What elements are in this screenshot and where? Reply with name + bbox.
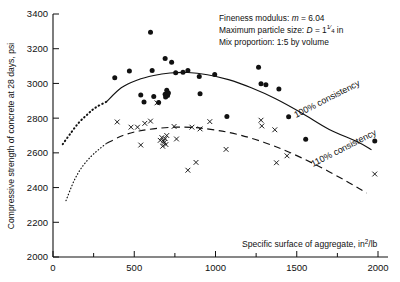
curve-extrapolation-110 — [66, 143, 107, 200]
x-axis-title-pre: Specific surface of aggregate, in — [242, 239, 365, 249]
data-point-100 — [256, 65, 261, 70]
curve-label-100-text: 100% consistency — [292, 78, 362, 120]
data-point-110 — [274, 160, 279, 165]
data-point-100 — [286, 114, 291, 119]
y-tick-label: 2000 — [27, 251, 48, 262]
data-point-110 — [115, 120, 120, 125]
data-point-100 — [127, 68, 132, 73]
anno1-symbol: m — [292, 13, 299, 23]
data-point-110 — [224, 147, 229, 152]
annotation-line-1: Fineness modulus: m = 6.04 — [219, 13, 325, 23]
data-point-110 — [185, 168, 190, 173]
data-point-100 — [166, 90, 171, 95]
data-point-110 — [285, 153, 290, 158]
y-axis-title: Compressive strength of concrete at 28 d… — [6, 43, 16, 229]
curve-extrapolation-100 — [63, 102, 107, 145]
data-point-110 — [135, 125, 140, 130]
data-point-110 — [129, 125, 134, 130]
y-tick-labels: 20002200240026002800300032003400 — [27, 8, 48, 262]
data-point-100 — [198, 91, 203, 96]
data-point-100 — [148, 30, 153, 35]
data-point-110 — [194, 160, 199, 165]
data-point-100 — [181, 70, 186, 75]
data-point-110 — [142, 121, 147, 126]
x-tick-labels: 0500100015002000 — [50, 262, 388, 273]
data-point-100 — [303, 137, 308, 142]
data-point-100 — [112, 75, 117, 80]
data-point-100 — [185, 68, 190, 73]
data-point-110 — [138, 143, 143, 148]
y-tick-label: 2400 — [27, 182, 48, 193]
chart-figure: 20002200240026002800300032003400 0500100… — [0, 0, 400, 282]
data-point-110 — [148, 119, 153, 124]
axes-lines — [53, 14, 388, 257]
x-tick-marks — [53, 251, 378, 257]
data-point-110 — [198, 127, 203, 132]
data-point-100 — [163, 56, 168, 61]
data-point-100 — [138, 93, 143, 98]
data-point-110 — [207, 119, 212, 124]
data-point-110 — [259, 118, 264, 123]
x-tick-label: 1000 — [205, 262, 226, 273]
x-tick-label: 2000 — [367, 262, 388, 273]
y-tick-label: 2600 — [27, 147, 48, 158]
y-tick-label: 3400 — [27, 8, 48, 19]
x-tick-label: 0 — [50, 262, 55, 273]
data-point-100 — [212, 72, 217, 77]
y-tick-label: 3200 — [27, 43, 48, 54]
annotation-block: Fineness modulus: m = 6.04 Maximum parti… — [219, 13, 344, 47]
annotation-line-2: Maximum particle size: D = 11⁄4 in — [219, 24, 344, 35]
anno2-prefix: Maximum particle size: — [219, 25, 307, 35]
x-axis-title-text: Specific surface of aggregate, in2/lb — [242, 238, 378, 249]
curve-label-100: 100% consistency — [292, 78, 362, 120]
data-point-100 — [197, 74, 202, 79]
anno1-suffix: = 6.04 — [299, 13, 325, 23]
data-point-110 — [174, 137, 179, 142]
data-point-110 — [272, 127, 277, 132]
series-110-points — [115, 100, 377, 176]
data-point-100 — [263, 82, 268, 87]
y-tick-marks — [53, 14, 59, 257]
fitted-curves — [63, 72, 372, 200]
y-tick-label: 3000 — [27, 78, 48, 89]
data-point-100 — [276, 86, 281, 91]
anno1-prefix: Fineness modulus: — [219, 13, 292, 23]
data-point-100 — [169, 60, 174, 65]
annotation-line-3: Mix proportion: 1:5 by volume — [219, 37, 329, 47]
chart-svg: 20002200240026002800300032003400 0500100… — [0, 0, 400, 282]
x-axis-title: Specific surface of aggregate, in2/lb — [242, 238, 378, 249]
data-point-110 — [259, 124, 264, 129]
y-tick-label: 2200 — [27, 217, 48, 228]
data-point-100 — [259, 81, 264, 86]
data-point-100 — [150, 68, 155, 73]
data-point-100 — [142, 100, 147, 105]
data-point-100 — [224, 114, 229, 119]
data-point-100 — [151, 94, 156, 99]
data-point-110 — [372, 172, 377, 177]
y-axis-title-text: Compressive strength of concrete at 28 d… — [6, 43, 16, 229]
x-tick-label: 500 — [126, 262, 142, 273]
curve-fit-100 — [107, 72, 372, 149]
anno2-mid: = 1 — [313, 25, 328, 35]
anno2-suffix: in — [334, 25, 343, 35]
data-point-110 — [172, 124, 177, 129]
data-point-100 — [372, 139, 377, 144]
data-point-100 — [173, 70, 178, 75]
y-tick-label: 2800 — [27, 113, 48, 124]
x-axis-title-post: /lb — [368, 239, 377, 249]
x-tick-label: 1500 — [286, 262, 307, 273]
